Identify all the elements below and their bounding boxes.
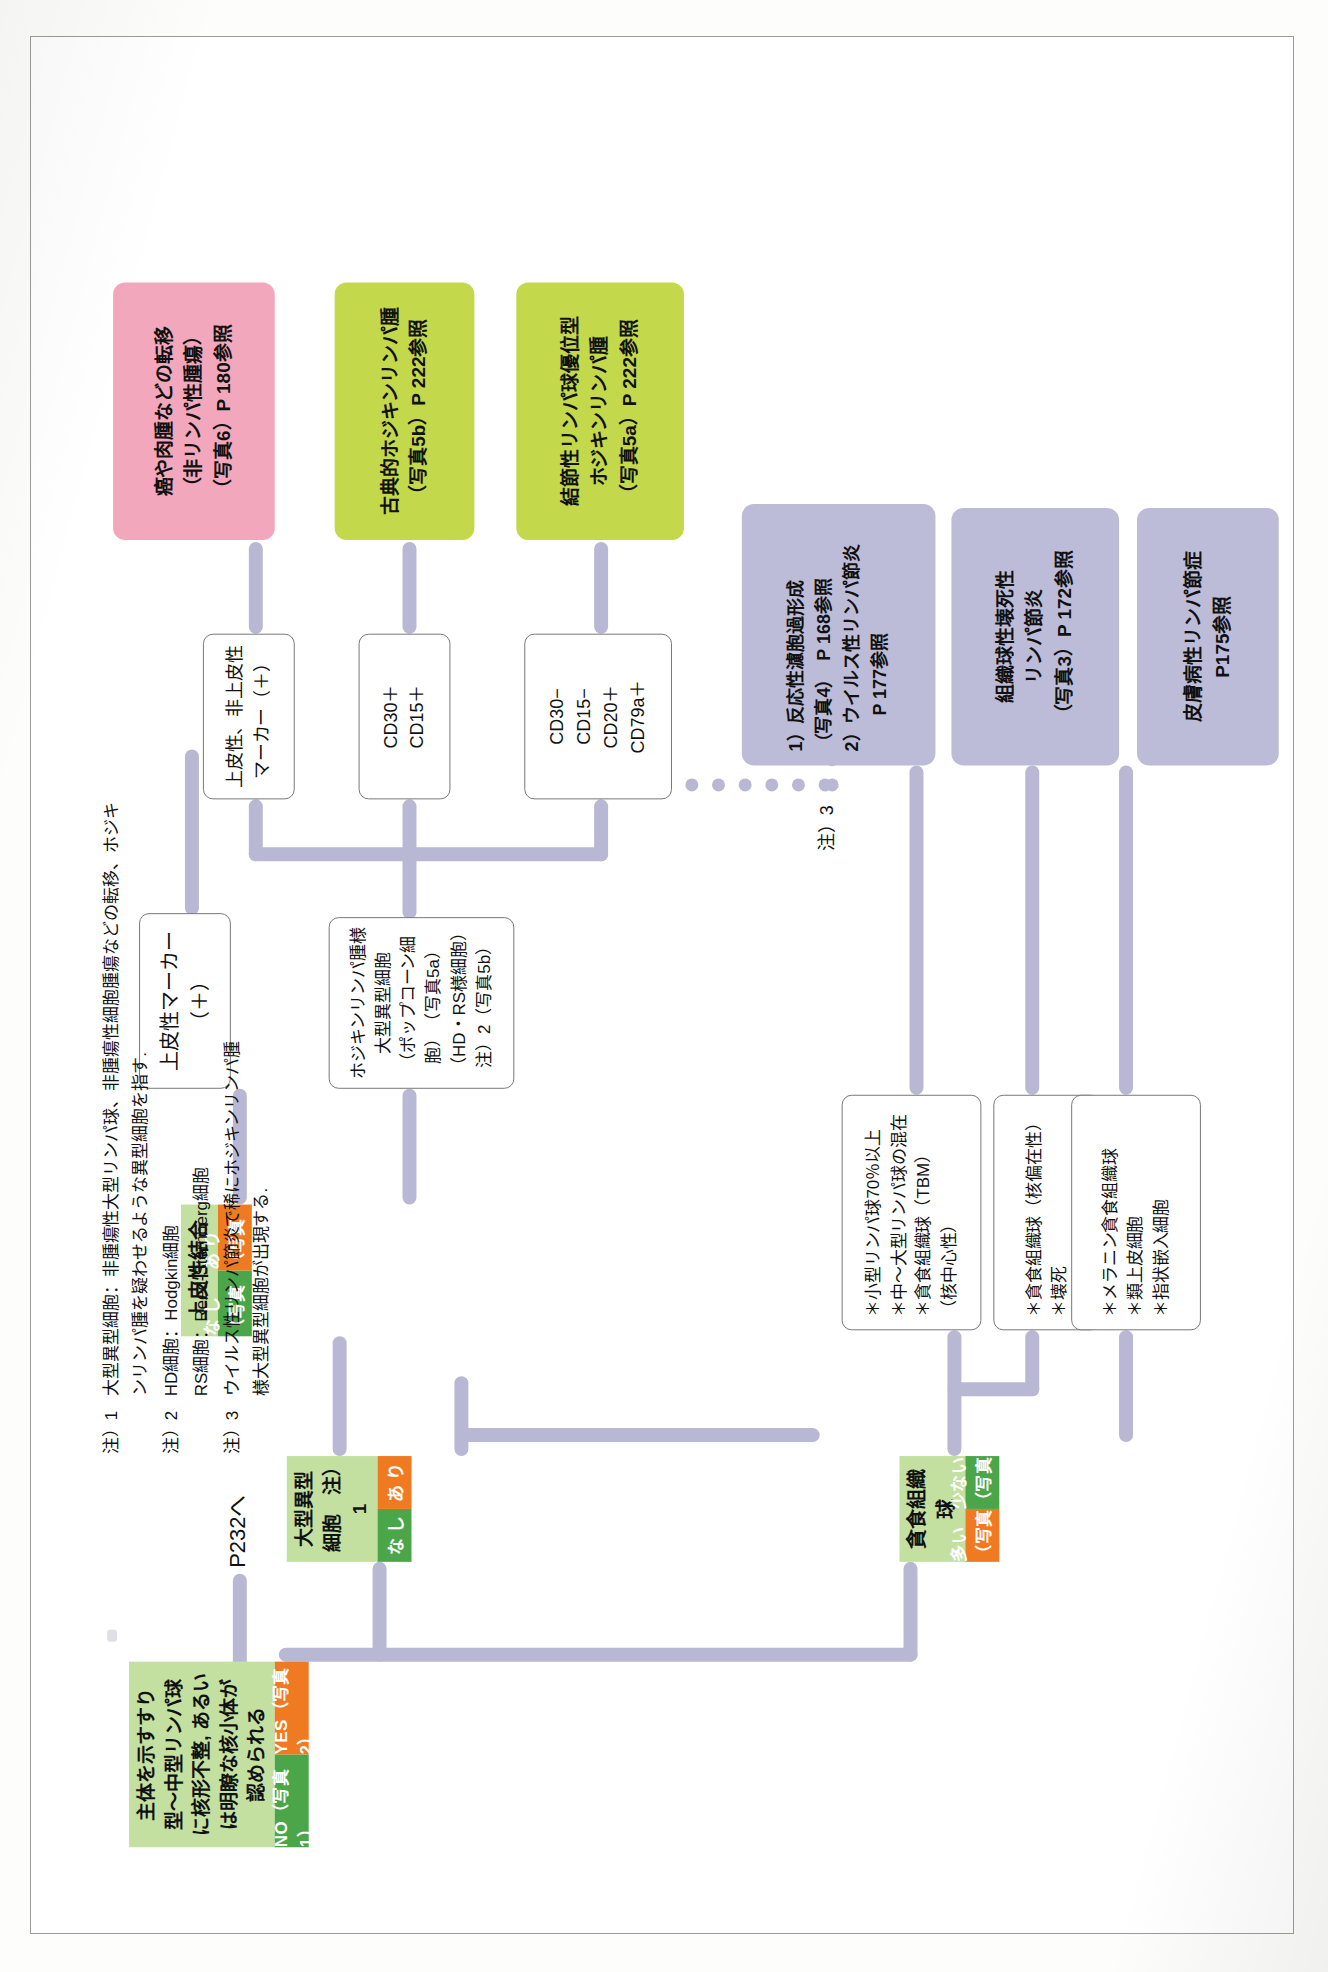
link-necrosis-to-histio — [1025, 765, 1039, 1094]
footnote-3-line2: 様大型異型細胞が出現する. — [247, 696, 276, 1397]
link-phago-few-to-tbm — [947, 1330, 961, 1396]
large-atypical-answer-some[interactable]: あ り — [377, 1456, 411, 1509]
reactive-line4: P 177参照 — [866, 633, 894, 751]
cd30-cd15-box: CD30＋ CD15＋ — [359, 634, 451, 800]
tbm-line1: ＊小型リンパ球70％以上 — [861, 1129, 886, 1318]
terminal-reactive-hyperplasia[interactable]: 1）反応性濾胞過形成 （写真4） P 168参照 2）ウイルス性リンパ節炎 P … — [742, 504, 936, 765]
hodgkin-like-line2: （ポップコーン細胞） （写真5a） — [396, 926, 447, 1080]
terminal-dermatopathic[interactable]: 皮膚病性リンパ節症 P175参照 — [1137, 508, 1279, 765]
footnote-3-body: ウイルス性リンパ節炎で稀にホジキンリンパ腫 様大型異型細胞が出現する. — [218, 696, 276, 1397]
p232-link-text[interactable]: P232へ — [221, 1495, 255, 1568]
dermatopathic-line2: P175参照 — [1208, 596, 1237, 678]
cd15-positive: CD15＋ — [405, 685, 432, 749]
page-border: 主体を示すすり型〜中型リンパ球に核形不整, あるいは明瞭な核小体が認められる N… — [30, 36, 1294, 1934]
link-trunk-to-large-atypical — [373, 1562, 387, 1662]
phagocytic-answer-many[interactable]: 多い（写真3） — [965, 1509, 999, 1562]
footnote-3: 注）3 ウイルス性リンパ節炎で稀にホジキンリンパ腫 様大型異型細胞が出現する. — [218, 696, 276, 1454]
link-melanin-to-dermatopathic — [1119, 765, 1133, 1094]
tbm-line3: ＊貪食組織球（TBM） — [912, 1146, 937, 1318]
phagocytic-histiocyte-box: 貪食組織球 多い（写真3） 少ない（写真4） — [900, 1456, 1199, 1562]
link-epi-none — [403, 1089, 417, 1205]
footnote-2-body: HD細胞：Hodgkin細胞 RS細胞：Reed-Sternberg細胞 — [157, 696, 215, 1397]
melanin-line2: ＊類上皮細胞 — [1123, 1216, 1148, 1318]
melanin-line1: ＊メラニン貪食組織球 — [1098, 1148, 1123, 1318]
hodgkin-like-line1: ホジキンリンパ腫様大型異型細胞 — [345, 926, 396, 1080]
reactive-line3: 2）ウイルス性リンパ節炎 — [839, 544, 867, 752]
link-bus-to-cd30cd15 — [403, 799, 417, 861]
nlphl-line2: ホジキンリンパ腫 — [585, 336, 614, 487]
tbm-criteria-box: ＊小型リンパ球70％以上 ＊中〜大型リンパ球の混在 ＊貪食組織球（TBM） （核… — [842, 1095, 982, 1331]
link-epinonepi-to-metastasis — [249, 542, 263, 634]
root-question-box: 主体を示すすり型〜中型リンパ球に核形不整, あるいは明瞭な核小体が認められる N… — [129, 1662, 428, 1848]
phagocytic-answer-few[interactable]: 少ない（写真4） — [965, 1456, 999, 1509]
link-cd3015-to-classical — [403, 542, 417, 634]
link-noatypical-v — [460, 1428, 819, 1442]
large-atypical-cell-title: 大型異型細胞 注）1 — [287, 1456, 377, 1562]
terminal-nlphl[interactable]: 結節性リンパ球優位型 ホジキンリンパ腫 （写真5a）P 222参照 — [516, 282, 684, 539]
hodgkin-like-cell-box: ホジキンリンパ腫様大型異型細胞 （ポップコーン細胞） （写真5a） （HD・RS… — [329, 917, 515, 1089]
link-phago-few-to-necrosis — [1025, 1330, 1039, 1396]
scanned-page: 主体を示すすり型〜中型リンパ球に核形不整, あるいは明瞭な核小体が認められる N… — [0, 0, 1328, 1972]
link-cdpanel-to-nlphl — [594, 542, 608, 634]
terminal-metastasis[interactable]: 癌や肉腫などの転移 （非リンパ性腫瘍） （写真6）P 180参照 — [113, 282, 275, 539]
terminal-classical-hodgkin[interactable]: 古典的ホジキンリンパ腫 （写真5b）P 222参照 — [335, 282, 475, 539]
link-hodgkin-vbus — [249, 847, 608, 861]
footnote-1-line1: 大型異型細胞：非腫瘍性大型リンパ球、非腫瘍性細胞腫瘍などの転移、ホジキ — [97, 696, 126, 1397]
root-answer-yes[interactable]: YES（写真2） — [275, 1662, 309, 1755]
cd20-positive: CD20＋ — [598, 685, 625, 749]
large-atypical-answer-none[interactable]: な し — [377, 1509, 411, 1562]
dermatopathic-line1: 皮膚病性リンパ節症 — [1179, 551, 1208, 722]
root-answer-no[interactable]: NO（写真1） — [275, 1754, 309, 1847]
melanin-line3: ＊指状嵌入細胞 — [1149, 1199, 1174, 1318]
large-atypical-cell-box: 大型異型細胞 注）1 な し あ り — [287, 1456, 473, 1562]
metastasis-line1: 癌や肉腫などの転移 — [150, 326, 179, 497]
classical-hodgkin-line2: （写真5b）P 222参照 — [405, 319, 434, 504]
classical-hodgkin-line1: 古典的ホジキンリンパ腫 — [375, 307, 404, 515]
terminal-histiocytic-necrotizing[interactable]: 組織球性壊死性 リンパ節炎 （写真3）P 172参照 — [951, 508, 1119, 765]
footnote-1-body: 大型異型細胞：非腫瘍性大型リンパ球、非腫瘍性細胞腫瘍などの転移、ホジキ ンリンパ… — [97, 696, 155, 1397]
tbm-line2: ＊中〜大型リンパ球の混在 — [886, 1114, 911, 1318]
cd30-positive: CD30＋ — [378, 685, 405, 749]
link-bus-to-cdpanel — [594, 799, 608, 861]
necrosis-line2: ＊壊死 — [1047, 1266, 1072, 1317]
cd15-negative: CD15− — [571, 688, 598, 744]
melanin-criteria-box: ＊メラニン貪食組織球 ＊類上皮細胞 ＊指状嵌入細胞 — [1071, 1095, 1201, 1331]
reactive-line1: 1）反応性濾胞過形成 — [783, 580, 811, 752]
footnote-1-line2: ンリンパ腫を疑わせるような異型細胞を指す. — [126, 696, 155, 1397]
root-question-text: 主体を示すすり型〜中型リンパ球に核形不整, あるいは明瞭な核小体が認められる — [129, 1662, 274, 1848]
link-trunk-to-phagocytic — [904, 1562, 918, 1662]
footnote-2-line1: HD細胞：Hodgkin細胞 — [157, 696, 186, 1397]
phagocytic-answer-strip: 多い（写真3） 少ない（写真4） — [965, 1456, 999, 1562]
nlphl-line1: 結節性リンパ球優位型 — [556, 316, 585, 506]
footnote-1: 注）1 大型異型細胞：非腫瘍性大型リンパ球、非腫瘍性細胞腫瘍などの転移、ホジキ … — [97, 696, 155, 1454]
footnote-3-label: 注）3 — [218, 1396, 276, 1454]
tbm-line4: （核中心性） — [937, 1216, 962, 1318]
flowchart-canvas: 主体を示すすり型〜中型リンパ球に核形不整, あるいは明瞭な核小体が認められる N… — [73, 77, 1251, 1893]
cd-panel-box: CD30− CD15− CD20＋ CD79a＋ — [524, 634, 672, 800]
footnote-1-label: 注）1 — [97, 1396, 155, 1454]
link-tbm-to-reactive — [910, 765, 924, 1094]
reactive-line2: （写真4） P 168参照 — [811, 578, 839, 751]
histio-line2: リンパ節炎 — [1021, 589, 1050, 684]
large-atypical-answer-strip: な し あ り — [377, 1456, 411, 1562]
link-phago-many — [1119, 1330, 1133, 1442]
link-noatypical-h — [454, 1376, 468, 1456]
footnote-2-line2: RS細胞：Reed-Sternberg細胞 — [187, 696, 216, 1397]
footnote-2-label: 注）2 — [157, 1396, 215, 1454]
metastasis-line3: （写真6）P 180参照 — [209, 324, 238, 498]
necrosis-line1: ＊貪食組織球（核偏在性） — [1022, 1114, 1047, 1318]
cd30-negative: CD30− — [544, 688, 571, 744]
root-answer-strip: NO（写真1） YES（写真2） — [275, 1662, 309, 1848]
footnote-3-line1: ウイルス性リンパ節炎で稀にホジキンリンパ腫 — [218, 696, 247, 1397]
note3-inline-label: 注）3 — [814, 805, 842, 851]
link-atypical-to-epithelioid — [333, 1336, 347, 1456]
cd79a-positive: CD79a＋ — [625, 680, 652, 754]
nlphl-line3: （写真5a）P 222参照 — [615, 319, 644, 503]
metastasis-line2: （非リンパ性腫瘍） — [179, 326, 208, 497]
hodgkin-like-line3: （HD・RS様細胞） 注）2（写真5b） — [447, 926, 498, 1080]
footnotes-block: 注）1 大型異型細胞：非腫瘍性大型リンパ球、非腫瘍性細胞腫瘍などの転移、ホジキ … — [97, 696, 276, 1454]
histio-line3: （写真3）P 172参照 — [1050, 550, 1079, 724]
footnote-2: 注）2 HD細胞：Hodgkin細胞 RS細胞：Reed-Sternberg細胞 — [157, 696, 215, 1454]
histio-line1: 組織球性壊死性 — [991, 570, 1020, 703]
scan-speck — [107, 1630, 117, 1642]
